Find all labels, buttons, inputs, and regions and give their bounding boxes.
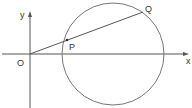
point-p bbox=[66, 39, 69, 42]
point-p-label: P bbox=[69, 42, 75, 52]
origin-label: O bbox=[17, 58, 24, 68]
line-oq bbox=[30, 12, 143, 54]
point-q-label: Q bbox=[145, 4, 152, 14]
coordinate-diagram: y x O P Q bbox=[0, 0, 192, 108]
y-axis-label: y bbox=[20, 10, 25, 20]
x-axis-label: x bbox=[186, 56, 191, 66]
y-axis-arrow-icon bbox=[28, 11, 32, 17]
